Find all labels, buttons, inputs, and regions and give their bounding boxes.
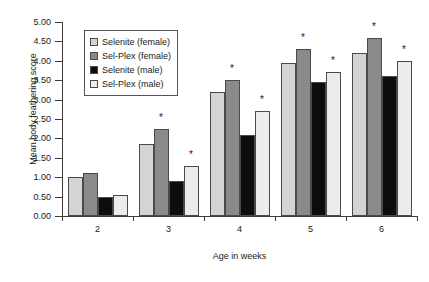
bar (68, 177, 83, 216)
y-tick-5.00: 5.00 (55, 22, 62, 23)
x-tick-label-week-6: 6 (379, 224, 384, 234)
bar (296, 49, 311, 216)
x-tick-label-week-3: 3 (166, 224, 171, 234)
legend: Selenite (female)Sel-Plex (female)Seleni… (84, 30, 178, 96)
bar (169, 181, 184, 216)
y-tick-label: 2.50 (33, 115, 51, 124)
y-axis-line (62, 22, 63, 216)
legend-label: Sel-Plex (male) (102, 79, 164, 89)
y-tick-0.00: 0.00 (55, 216, 62, 217)
y-tick-label: 1.50 (33, 153, 51, 162)
bar (240, 135, 255, 216)
x-axis-title: Age in weeks (62, 251, 417, 261)
significance-star: * (260, 95, 264, 105)
significance-star: * (189, 150, 193, 160)
x-tick-boundary (346, 216, 347, 221)
x-tick-boundary (133, 216, 134, 221)
bar (83, 173, 98, 216)
legend-label: Sel-Plex (female) (102, 51, 171, 61)
x-tick-boundary (417, 216, 418, 221)
y-tick-1.50: 1.50 (55, 158, 62, 159)
x-tick-boundary (275, 216, 276, 221)
bar (311, 82, 326, 216)
x-tick-label-week-4: 4 (237, 224, 242, 234)
bar (326, 72, 341, 216)
significance-star: * (331, 56, 335, 66)
bar (367, 38, 382, 216)
x-tick-boundary (204, 216, 205, 221)
y-tick-label: 3.50 (33, 76, 51, 85)
y-tick-3.50: 3.50 (55, 80, 62, 81)
bar (210, 92, 225, 216)
bar (225, 80, 240, 216)
bar-chart: Mean body feathering score 0.000.501.001… (0, 0, 429, 282)
legend-label: Selenite (male) (102, 65, 163, 75)
legend-item[interactable]: Sel-Plex (male) (90, 77, 171, 91)
y-tick-label: 1.00 (33, 173, 51, 182)
y-tick-label: 4.50 (33, 37, 51, 46)
x-tick-boundary (62, 216, 63, 221)
x-axis-line (62, 216, 417, 217)
significance-star: * (159, 113, 163, 123)
legend-item[interactable]: Sel-Plex (female) (90, 49, 171, 63)
x-tick-label-week-5: 5 (308, 224, 313, 234)
bar (352, 53, 367, 216)
y-tick-label: 0.50 (33, 192, 51, 201)
legend-swatch-icon (90, 38, 98, 46)
legend-item[interactable]: Selenite (male) (90, 63, 171, 77)
x-tick-label-week-2: 2 (95, 224, 100, 234)
legend-item[interactable]: Selenite (female) (90, 35, 171, 49)
y-tick-1.00: 1.00 (55, 177, 62, 178)
y-tick-4.00: 4.00 (55, 61, 62, 62)
y-tick-3.00: 3.00 (55, 100, 62, 101)
y-tick-label: 4.00 (33, 56, 51, 65)
legend-label: Selenite (female) (102, 37, 170, 47)
significance-star: * (372, 22, 376, 32)
bar (255, 111, 270, 216)
bar (113, 195, 128, 216)
legend-swatch-icon (90, 66, 98, 74)
y-tick-2.00: 2.00 (55, 138, 62, 139)
y-tick-4.50: 4.50 (55, 41, 62, 42)
y-tick-label: 3.00 (33, 95, 51, 104)
bar (139, 144, 154, 216)
legend-swatch-icon (90, 80, 98, 88)
y-tick-label: 2.00 (33, 134, 51, 143)
bar (382, 76, 397, 216)
y-tick-0.50: 0.50 (55, 197, 62, 198)
y-tick-label: 5.00 (33, 18, 51, 27)
significance-star: * (230, 64, 234, 74)
bar (184, 166, 199, 216)
y-tick-label: 0.00 (33, 212, 51, 221)
y-tick-2.50: 2.50 (55, 119, 62, 120)
bar (98, 197, 113, 216)
significance-star: * (402, 45, 406, 55)
significance-star: * (301, 33, 305, 43)
bar (281, 63, 296, 216)
legend-swatch-icon (90, 52, 98, 60)
bar (397, 61, 412, 216)
bar (154, 129, 169, 216)
